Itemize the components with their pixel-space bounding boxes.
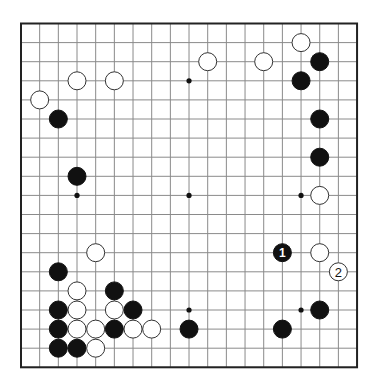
black-stone-circle [49,263,67,281]
black-stone-circle [68,339,86,357]
white-stone [87,320,105,338]
white-stone [87,244,105,262]
black-stone-circle [49,320,67,338]
black-stone-circle [311,53,329,71]
white-stone-circle [105,301,123,319]
white-stone-circle [199,53,217,71]
black-stone-circle [180,320,198,338]
white-stone [87,339,105,357]
star-point [74,193,79,198]
black-stone-circle [105,282,123,300]
black-stone [105,282,123,300]
black-stone [49,110,67,128]
white-stone-circle [87,244,105,262]
white-stone [292,34,310,52]
black-stone [49,320,67,338]
star-point [186,78,191,83]
star-point [298,307,303,312]
black-stone-circle [273,320,291,338]
black-stone [273,320,291,338]
white-stone-circle [124,320,142,338]
white-stone-circle [68,72,86,90]
white-stone [199,53,217,71]
black-stone [124,301,142,319]
go-board: 12 [0,0,378,390]
black-stone-circle [105,320,123,338]
white-stone: 2 [329,263,347,281]
white-stone-circle [68,282,86,300]
white-stone-circle [105,72,123,90]
move-number-label: 2 [335,265,342,280]
white-stone [255,53,273,71]
black-stone [292,72,310,90]
white-stone [311,186,329,204]
white-stone [143,320,161,338]
white-stone-circle [68,320,86,338]
black-stone [68,167,86,185]
white-stone [105,72,123,90]
black-stone-circle [49,339,67,357]
white-stone [68,72,86,90]
black-stone [311,110,329,128]
black-stone [311,301,329,319]
black-stone [311,53,329,71]
black-stone [105,320,123,338]
black-stone: 1 [273,244,291,262]
black-stone [68,339,86,357]
star-point [186,307,191,312]
white-stone-circle [87,339,105,357]
black-stone-circle [49,301,67,319]
white-stone [68,301,86,319]
white-stone-circle [292,34,310,52]
white-stone [31,91,49,109]
star-point [186,193,191,198]
white-stone-circle [255,53,273,71]
black-stone [49,301,67,319]
black-stone [311,148,329,166]
white-stone-circle [311,244,329,262]
black-stone-circle [68,167,86,185]
black-stone [49,263,67,281]
white-stone-circle [143,320,161,338]
white-stone [68,320,86,338]
black-stone-circle [311,301,329,319]
white-stone-circle [87,320,105,338]
black-stone-circle [49,110,67,128]
white-stone [311,244,329,262]
white-stone [68,282,86,300]
white-stone-circle [311,186,329,204]
white-stone-circle [68,301,86,319]
black-stone [49,339,67,357]
black-stone-circle [292,72,310,90]
white-stone [124,320,142,338]
move-number-label: 1 [279,246,286,260]
black-stone-circle [311,148,329,166]
white-stone [105,301,123,319]
black-stone [180,320,198,338]
star-point [298,193,303,198]
white-stone-circle [31,91,49,109]
black-stone-circle [311,110,329,128]
black-stone-circle [124,301,142,319]
